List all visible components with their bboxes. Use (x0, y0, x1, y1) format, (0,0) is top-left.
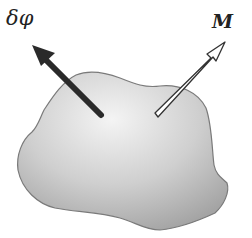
moment-label: M (212, 10, 233, 32)
diagram-canvas (0, 0, 252, 238)
variation-label: δφ (6, 6, 33, 30)
rigid-body-blob (18, 72, 228, 230)
